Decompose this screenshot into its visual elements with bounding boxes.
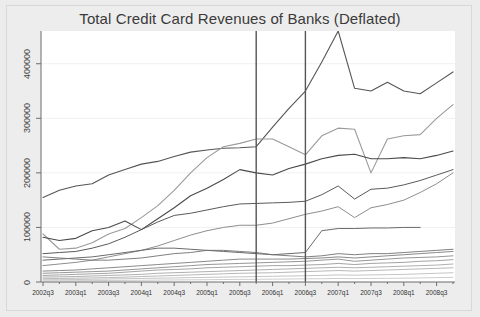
x-tick-label: 2008q1 — [387, 289, 421, 296]
x-tick-label: 2006q1 — [256, 289, 290, 296]
x-tick-label: 2005q1 — [190, 289, 224, 296]
y-tick-label: 0 — [21, 258, 33, 306]
x-tick-label: 2007q1 — [321, 289, 355, 296]
y-tick-label: 400000 — [21, 40, 33, 88]
chart-figure: Total Credit Card Revenues of Banks (Def… — [0, 0, 480, 317]
x-tick-label: 2002q3 — [26, 289, 60, 296]
x-tick-marks — [43, 282, 453, 286]
y-tick-marks — [36, 64, 41, 282]
x-tick-label: 2006q3 — [288, 289, 322, 296]
y-tick-label: 300000 — [21, 94, 33, 142]
x-tick-label: 2007q3 — [354, 289, 388, 296]
x-tick-label: 2003q1 — [59, 289, 93, 296]
x-tick-label: 2005q3 — [223, 289, 257, 296]
x-tick-label: 2003q3 — [92, 289, 126, 296]
x-tick-label: 2004q1 — [124, 289, 158, 296]
x-tick-label: 2008q3 — [420, 289, 454, 296]
y-tick-label: 200000 — [21, 149, 33, 197]
axes-svg — [0, 0, 480, 317]
x-tick-label: 2004q3 — [157, 289, 191, 296]
y-tick-label: 100000 — [21, 203, 33, 251]
